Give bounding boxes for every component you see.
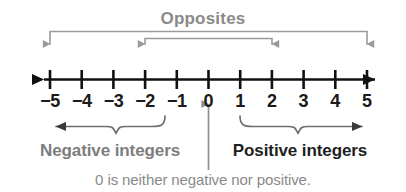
positive-integers-label: Positive integers [233,142,367,159]
axis-label-1: 1 [235,92,245,110]
zero-note: 0 is neither negative nor positive. [95,172,311,187]
number-line-diagram: Opposites −5 −4 −3 −2 −1 0 1 2 3 4 5 Neg… [0,0,406,192]
opposites-bracket-inner [145,39,272,45]
axis-label-4: 4 [330,92,340,110]
negative-integers-brace [56,116,165,134]
axis-label-5: 5 [362,92,372,110]
axis-label--4: −4 [72,92,92,110]
opposites-title: Opposites [161,10,246,27]
negative-integers-label: Negative integers [40,142,180,159]
axis-label--1: −1 [167,92,187,110]
positive-integers-brace [240,116,362,134]
axis-label-2: 2 [267,92,277,110]
axis-label-3: 3 [299,92,309,110]
axis-label--3: −3 [104,92,124,110]
axis-label--2: −2 [135,92,155,110]
axis-label-0: 0 [203,92,213,110]
axis-label--5: −5 [40,92,60,110]
